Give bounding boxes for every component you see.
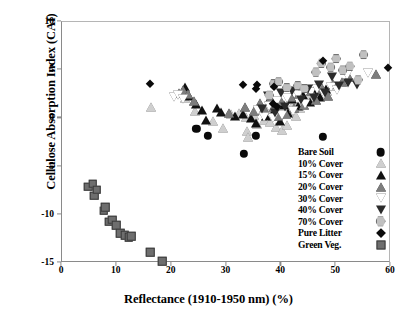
marker-triangle-down-open	[376, 194, 386, 203]
x-tick-mark	[115, 262, 116, 266]
x-tick-label: 10	[111, 265, 121, 275]
legend-label: 70% Cover	[298, 216, 343, 227]
legend-label: 30% Cover	[298, 193, 343, 204]
marker-square-gray	[146, 248, 155, 257]
marker-square-gray	[92, 185, 101, 194]
marker-circle-filled	[192, 125, 200, 133]
marker-hexagon-gray	[359, 50, 369, 60]
y-tick-mark	[57, 213, 61, 214]
marker-diamond-black	[376, 228, 386, 238]
marker-triangle-down-filled	[309, 94, 319, 103]
marker-triangle-up-gray	[189, 97, 199, 106]
x-tick-mark	[170, 262, 171, 266]
marker-hexagon-gray	[326, 62, 336, 72]
scatter-chart: Cellulose Absorption Index (CAI) 1050-5-…	[0, 0, 417, 322]
marker-triangle-up-black	[376, 170, 386, 179]
legend-symbol	[373, 216, 388, 228]
marker-triangle-down-open	[178, 95, 188, 104]
legend-label: 15% Cover	[298, 169, 343, 180]
x-tick-label: 40	[276, 265, 286, 275]
marker-circle-filled	[376, 147, 385, 156]
legend-item-pure-litter[interactable]: Pure Litter	[298, 227, 388, 239]
legend-symbol	[373, 227, 388, 239]
marker-triangle-up-black	[197, 105, 207, 114]
legend-item-15-cover[interactable]: 15% Cover	[298, 169, 388, 181]
x-tick-mark	[280, 262, 281, 266]
marker-diamond-black	[238, 80, 247, 89]
x-tick-mark	[335, 262, 336, 266]
marker-triangle-up-light	[376, 159, 386, 168]
x-tick-label: 0	[59, 265, 64, 275]
legend-label: Green Veg.	[298, 239, 341, 250]
legend-item-40-cover[interactable]: 40% Cover	[298, 204, 388, 216]
marker-triangle-down-filled	[376, 205, 386, 214]
x-tick-label: 20	[166, 265, 176, 275]
x-tick-label: 50	[330, 265, 340, 275]
marker-triangle-down-filled	[314, 80, 324, 89]
marker-circle-filled	[319, 133, 327, 141]
marker-triangle-up-light	[218, 124, 228, 133]
legend-label: 20% Cover	[298, 181, 343, 192]
x-axis-title: Reflectance (1910-1950 nm) (%)	[0, 292, 417, 307]
marker-hexagon-gray	[375, 216, 385, 226]
legend-symbol	[373, 192, 388, 204]
marker-triangle-down-filled	[327, 72, 337, 81]
marker-triangle-up-light	[146, 102, 156, 111]
marker-triangle-down-filled	[257, 104, 267, 113]
marker-square-gray	[127, 232, 136, 241]
marker-square-gray	[101, 203, 110, 212]
legend-symbol	[373, 204, 388, 216]
legend-symbol	[373, 169, 388, 181]
legend-item-bare-soil[interactable]: Bare Soil	[298, 146, 388, 158]
y-tick-label: -5	[46, 161, 54, 171]
marker-hexagon-gray	[331, 54, 341, 64]
legend-item-70-cover[interactable]: 70% Cover	[298, 216, 388, 228]
legend-label: Bare Soil	[298, 146, 334, 157]
y-tick-label: -15	[41, 257, 54, 267]
marker-circle-filled	[240, 150, 248, 158]
legend-symbol	[373, 158, 388, 170]
marker-diamond-black	[145, 79, 154, 88]
y-tick-mark	[57, 117, 61, 118]
legend-label: 10% Cover	[298, 158, 343, 169]
marker-triangle-up-light	[243, 132, 253, 141]
marker-square-gray	[376, 240, 385, 249]
legend-symbol	[373, 239, 388, 251]
x-tick-mark	[225, 262, 226, 266]
marker-triangle-down-filled	[296, 96, 306, 105]
legend-symbol	[373, 181, 388, 193]
y-tick-label: 0	[49, 112, 54, 122]
y-tick-label: 10	[45, 16, 55, 26]
legend: Bare Soil10% Cover15% Cover20% Cover30% …	[298, 146, 388, 250]
marker-diamond-black	[383, 64, 392, 73]
marker-triangle-up-gray	[376, 182, 386, 191]
legend-item-20-cover[interactable]: 20% Cover	[298, 181, 388, 193]
legend-item-30-cover[interactable]: 30% Cover	[298, 192, 388, 204]
marker-triangle-up-black	[201, 116, 211, 125]
marker-triangle-down-filled	[320, 89, 330, 98]
legend-item-green-veg[interactable]: Green Veg.	[298, 239, 388, 251]
marker-hexagon-gray	[311, 67, 321, 77]
legend-label: Pure Litter	[298, 227, 342, 238]
marker-triangle-up-gray	[224, 108, 234, 117]
legend-item-10-cover[interactable]: 10% Cover	[298, 158, 388, 170]
y-tick-mark	[57, 69, 61, 70]
x-tick-mark	[389, 262, 390, 266]
x-tick-label: 30	[221, 265, 231, 275]
legend-symbol	[373, 146, 388, 158]
legend-label: 40% Cover	[298, 204, 343, 215]
x-tick-mark	[60, 262, 61, 266]
x-tick-label: 60	[385, 265, 395, 275]
y-tick-label: 5	[49, 64, 54, 74]
y-tick-label: -10	[41, 209, 54, 219]
y-tick-mark	[57, 165, 61, 166]
marker-circle-filled	[204, 132, 212, 140]
marker-triangle-down-open	[363, 69, 373, 78]
y-tick-mark	[57, 20, 61, 21]
